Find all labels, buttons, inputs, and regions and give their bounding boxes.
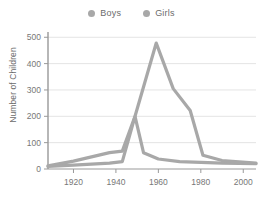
y-tick-label: 100 [27, 138, 41, 148]
line-chart-svg: 0100200300400500 19201940196019802000 [0, 22, 263, 217]
x-tick-label: 2000 [234, 177, 253, 187]
chart-legend: Boys Girls [0, 6, 263, 20]
legend-item-boys[interactable]: Boys [88, 9, 121, 18]
x-tick-marks-group [73, 169, 243, 173]
legend-marker-boys [88, 10, 95, 17]
series-line-girls [48, 43, 256, 166]
legend-marker-girls [143, 10, 150, 17]
y-tick-labels-group: 0100200300400500 [27, 32, 41, 174]
data-series-group [48, 43, 256, 166]
legend-label-boys: Boys [100, 9, 121, 18]
y-tick-label: 200 [27, 111, 41, 121]
x-tick-labels-group: 19201940196019802000 [64, 177, 253, 187]
x-tick-label: 1920 [64, 177, 83, 187]
legend-item-girls[interactable]: Girls [143, 9, 175, 18]
legend-label-girls: Girls [155, 9, 175, 18]
x-tick-label: 1940 [106, 177, 125, 187]
x-tick-label: 1960 [149, 177, 168, 187]
plot-area-wrapper: Number of Children 0100200300400500 1920… [0, 22, 263, 217]
y-tick-label: 0 [36, 164, 41, 174]
y-tick-label: 500 [27, 32, 41, 42]
x-tick-label: 1980 [191, 177, 210, 187]
y-axis-title: Number of Children [8, 25, 18, 145]
chart-container: Boys Girls Number of Children 0100200300… [0, 0, 263, 217]
y-tick-label: 400 [27, 59, 41, 69]
y-tick-label: 300 [27, 85, 41, 95]
